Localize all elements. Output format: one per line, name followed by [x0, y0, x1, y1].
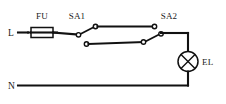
circuit-diagram: L N FU SA1 SA2 EL [0, 0, 226, 104]
wire-traveler-lower [89, 42, 144, 44]
label-switch-sa1: SA1 [69, 11, 86, 21]
sa1-blade [79, 27, 95, 35]
label-neutral-terminal: N [8, 81, 15, 91]
label-lamp: EL [202, 57, 213, 67]
label-switch-sa2: SA2 [161, 11, 178, 21]
label-fuse: FU [36, 11, 48, 21]
sa2-upper-contact-terminal[interactable] [152, 24, 156, 28]
wire-fuse-to-sa1 [53, 33, 78, 35]
sa1-common-terminal[interactable] [76, 33, 80, 37]
circuit-schematic-canvas: L N FU SA1 SA2 EL [0, 0, 226, 104]
sa2-lower-contact-terminal[interactable] [141, 40, 145, 44]
label-line-terminal: L [8, 28, 14, 38]
sa2-blade [145, 34, 161, 42]
